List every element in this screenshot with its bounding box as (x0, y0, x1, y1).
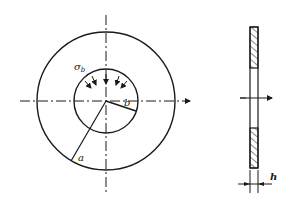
front-view: σb b a (20, 15, 190, 195)
dimension-arrow-left-icon (244, 182, 250, 186)
side-view: h (238, 27, 277, 193)
outer-radius-line (71, 101, 106, 161)
diagram-canvas: σb b a h (0, 0, 294, 210)
hatched-section-top (250, 27, 258, 68)
pressure-label: σb (74, 61, 86, 74)
dimension-arrow-right-icon (258, 182, 264, 186)
hatched-section-bottom (250, 128, 258, 168)
thickness-label: h (270, 171, 277, 182)
inner-radius-line (106, 101, 136, 111)
pressure-arrows (85, 74, 127, 88)
outer-radius-label: a (78, 152, 84, 163)
inner-radius-label: b (124, 97, 130, 108)
